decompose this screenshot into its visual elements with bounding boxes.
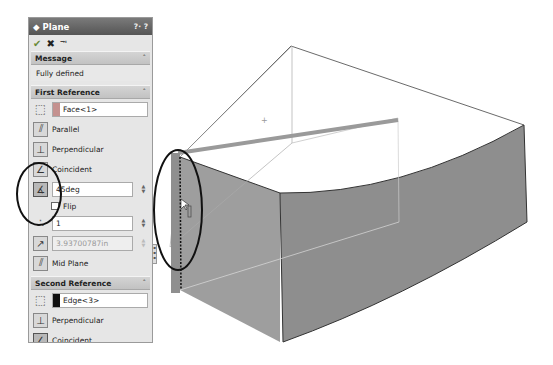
pm-title: Plane xyxy=(43,22,134,32)
instances-spinner[interactable]: ▲▼ xyxy=(139,216,148,231)
annotation-ellipse-angle xyxy=(16,162,62,226)
distance-icon[interactable]: ↗ xyxy=(33,236,48,251)
selection-color-swatch xyxy=(53,294,60,307)
pm-action-bar: ✔ ✖ ⭲ xyxy=(29,35,152,51)
second-reference-selection-box[interactable]: Edge<3> xyxy=(52,293,148,308)
parallel-icon[interactable]: ⫽ xyxy=(33,122,48,137)
second-coincident-option[interactable]: ∠ Coincident xyxy=(29,330,152,343)
instances-input[interactable]: 1 xyxy=(52,216,133,231)
distance-row: ↗ 3.93700787in ▲▼ xyxy=(29,233,152,253)
plane-icon: ◆ xyxy=(33,22,40,32)
mouse-cursor-icon xyxy=(181,199,189,210)
distance-spinner[interactable]: ▲▼ xyxy=(139,236,148,251)
perpendicular-icon[interactable]: ⊥ xyxy=(33,313,48,328)
first-reference-selection-box[interactable]: Face<1> xyxy=(52,102,148,117)
message-group-header[interactable]: Message ˄ xyxy=(31,51,150,65)
selected-edge xyxy=(180,157,181,290)
mid-plane-icon[interactable]: ⫽ xyxy=(33,256,48,271)
angle-input[interactable]: 45deg xyxy=(52,182,133,197)
face-cube-icon: ⬚ xyxy=(33,102,48,117)
message-text: Fully defined xyxy=(31,65,150,81)
second-reference-header[interactable]: Second Reference ˄ xyxy=(31,276,150,290)
second-reference-selection-row: ⬚ Edge<3> xyxy=(29,290,152,310)
pm-title-bar: ◆ Plane ?· ? xyxy=(29,18,152,35)
annotation-ellipse-edge xyxy=(154,150,202,270)
perpendicular-icon[interactable]: ⊥ xyxy=(33,142,48,157)
plane-preview xyxy=(170,46,292,247)
perpendicular-option[interactable]: ⊥ Perpendicular xyxy=(29,139,152,159)
first-reference-selection-row: ⬚ Face<1> xyxy=(29,99,152,119)
pin-button[interactable]: ⭲ xyxy=(60,35,67,51)
distance-input[interactable]: 3.93700787in xyxy=(52,236,133,251)
selection-color-swatch xyxy=(53,103,60,116)
selected-face-edge xyxy=(178,120,398,153)
chevron-up-icon[interactable]: ˄ xyxy=(143,54,147,62)
chevron-up-icon[interactable]: ˄ xyxy=(143,88,147,96)
parallel-option[interactable]: ⫽ Parallel xyxy=(29,119,152,139)
part-front-face xyxy=(180,157,280,342)
coincident-icon[interactable]: ∠ xyxy=(33,333,48,344)
ok-button[interactable]: ✔ xyxy=(33,38,41,49)
first-reference-header[interactable]: First Reference ˄ xyxy=(31,85,150,99)
part-top-edges xyxy=(180,46,524,157)
part-curved-face xyxy=(280,125,527,342)
second-perpendicular-option[interactable]: ⊥ Perpendicular xyxy=(29,310,152,330)
chevron-up-icon[interactable]: ˄ xyxy=(143,279,147,287)
edge-cube-icon: ⬚ xyxy=(33,293,48,308)
angle-spinner[interactable]: ▲▼ xyxy=(139,182,148,197)
help-button[interactable]: ?· ? xyxy=(134,22,148,31)
svg-text:+: + xyxy=(261,116,268,125)
mid-plane-option[interactable]: ⫽ Mid Plane xyxy=(29,253,152,273)
pm-collapse-tab[interactable]: ▪▪▪ xyxy=(152,244,157,264)
cancel-button[interactable]: ✖ xyxy=(46,38,54,49)
